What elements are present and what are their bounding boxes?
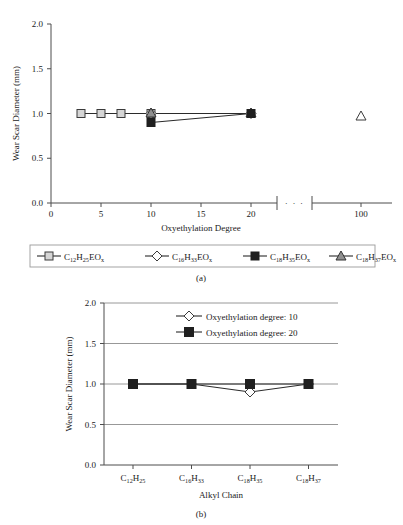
open-square-icon [45,252,53,260]
panel-a-legend-label-2: C18H35EOx [270,252,311,263]
panel-b-ytick-2: 1.0 [85,379,97,389]
panel-a-series-line-c18h35 [151,114,251,123]
panel-a-ytick-0: 0.0 [32,198,44,208]
panel-b-ytick-1: 0.5 [85,420,97,430]
panel-a-xtick-5: 100 [354,209,368,219]
panel-a-xtick-0: 0 [49,209,54,219]
panel-a-xlabel: Oxyethylation Degree [161,223,241,233]
panel-b-legend-label-0: Oxyethylation degree: 10 [206,312,298,322]
panel-a-legend-item-c16h33[interactable]: C16H33EOx [145,251,213,263]
panel-a-xtick-2: 10 [147,209,157,219]
filled-square-icon [185,328,194,337]
panel-a-ytick-4: 2.0 [32,19,44,29]
panel-a-xtick-4: 20 [247,209,257,219]
panel-b-legend-item-deg10[interactable]: Oxyethylation degree: 10 [176,311,298,322]
figure-container: 0.0 0.5 1.0 1.5 2.0 0 5 10 15 20 100 [0,0,403,525]
panel-b-x-ticks [133,465,309,469]
panel-b-xlabel: Alkyl Chain [199,490,244,500]
panel-a-ytick-3: 1.5 [32,64,44,74]
panel-b-category-0: C12H25 [121,473,146,484]
panel-b-chart: 0.0 0.5 1.0 1.5 2.0 [0,285,403,525]
panel-b-y-ticks [100,303,104,465]
filled-square-icon [251,252,259,260]
panel-b-series-line-deg10 [133,384,309,392]
panel-a-legend-label-1: C16H33EOx [172,252,213,263]
panel-a-x-ticks [51,203,361,207]
panel-b-category-1: C16H33 [179,473,204,484]
panel-a-ytick-2: 1.0 [32,109,44,119]
panel-a-break-dots: · · · [285,198,305,208]
panel-b-legend-label-1: Oxyethylation degree: 20 [206,328,298,338]
panel-a-ytick-1: 0.5 [32,153,44,163]
panel-b-caption: (b) [196,509,207,519]
panel-a: 0.0 0.5 1.0 1.5 2.0 0 5 10 15 20 100 [0,0,403,285]
panel-b-ytick-4: 2.0 [85,298,97,308]
panel-a-caption: (a) [196,273,206,283]
panel-a-y-ticks [47,24,51,203]
panel-a-chart: 0.0 0.5 1.0 1.5 2.0 0 5 10 15 20 100 [0,0,403,285]
panel-a-legend-item-c12h25[interactable]: C12H25EOx [37,252,105,263]
open-diamond-icon [184,311,194,321]
panel-b-category-3: C18H37 [296,473,321,484]
open-diamond-icon [152,251,162,261]
panel-a-legend-item-c18h35[interactable]: C18H35EOx [243,252,311,263]
panel-a-ylabel: Wear Scar Diameter (mm) [11,66,21,161]
panel-a-legend-label-0: C12H25EOx [64,252,105,263]
panel-b-legend-item-deg20[interactable]: Oxyethylation degree: 20 [176,328,298,338]
panel-a-xtick-3: 15 [197,209,207,219]
panel-b-category-2: C18H35 [238,473,263,484]
panel-b-ylabel: Wear Scar Diameter (mm) [64,337,74,432]
panel-a-legend-item-c18h37[interactable]: C18H37EOx [329,251,397,263]
panel-a-legend-label-3: C18H37EOx [356,252,397,263]
panel-b-ytick-3: 1.5 [85,339,97,349]
panel-a-axis-break: · · · [277,196,312,210]
panel-b: 0.0 0.5 1.0 1.5 2.0 [0,285,403,525]
panel-b-ytick-0: 0.0 [85,460,97,470]
panel-a-xtick-1: 5 [99,209,104,219]
